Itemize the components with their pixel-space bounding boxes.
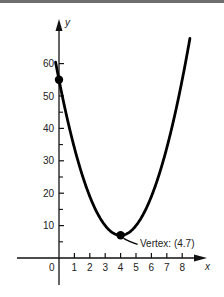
y-intercept-point xyxy=(55,76,63,84)
points xyxy=(55,76,138,245)
y-tick-label: 60 xyxy=(43,58,55,69)
x-tick-label: 7 xyxy=(164,262,170,273)
x-tick-label: 2 xyxy=(87,262,93,273)
x-tick-label: 3 xyxy=(102,262,108,273)
y-tick-label: 10 xyxy=(43,220,55,231)
x-tick-label: 1 xyxy=(72,262,78,273)
x-axis-label: x xyxy=(204,261,211,272)
x-tick-label: 6 xyxy=(149,262,155,273)
y-axis-label: y xyxy=(64,17,71,28)
x-tick-label: 5 xyxy=(133,262,139,273)
vertex-leader-line xyxy=(124,238,138,244)
y-tick-label: 50 xyxy=(43,91,55,102)
origin-label: 0 xyxy=(49,262,55,273)
vertex-point xyxy=(116,231,124,239)
parabola-line xyxy=(56,38,190,235)
y-axis-arrow-icon xyxy=(56,19,63,31)
x-tick-label: 8 xyxy=(179,262,185,273)
y-tick-label: 20 xyxy=(43,188,55,199)
curve xyxy=(56,38,190,235)
x-tick-label: 4 xyxy=(118,262,124,273)
y-tick-label: 30 xyxy=(43,155,55,166)
vertex-annotation: Vertex: (4.7) xyxy=(140,238,194,249)
parabola-chart: 12345678102030405060 y x 0 Vertex: (4.7) xyxy=(0,0,224,297)
y-tick-label: 40 xyxy=(43,123,55,134)
